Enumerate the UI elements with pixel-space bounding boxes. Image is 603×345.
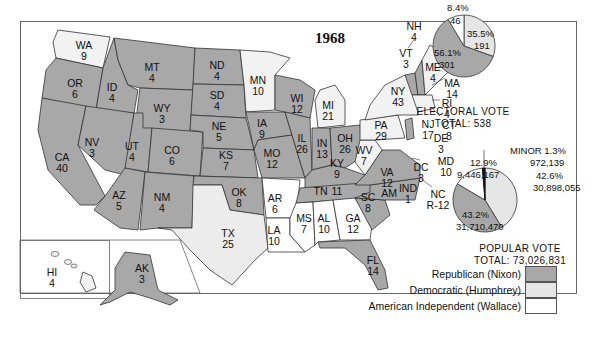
label-ND: ND4 (209, 60, 224, 82)
legend-item-democratic: Democratic (Humphrey) (410, 282, 557, 298)
label-NH: NH4 (406, 21, 421, 43)
hawaii-inset-frame (21, 241, 110, 299)
label-MN: MN10 (250, 75, 266, 97)
label-ID: ID4 (107, 82, 118, 104)
label-UT: UT4 (125, 141, 139, 163)
label-CO: CO6 (164, 145, 180, 167)
label-MD: MD10 (438, 156, 454, 178)
ev-r-value: 301 (439, 59, 455, 70)
label-OH: OH26 (337, 133, 353, 155)
label-AL: AL10 (318, 213, 331, 235)
ev-ai-value: 46 (450, 15, 461, 26)
label-IN: IN13 (316, 138, 328, 160)
label-VT: VT3 (399, 48, 412, 70)
ev-caption: ELECTORAL VOTETOTAL: 538 (413, 106, 513, 130)
state-HI (80, 272, 96, 292)
label-NE: NE5 (212, 121, 227, 143)
label-SC: SC8 (361, 192, 376, 214)
label-DC: DC3 (413, 162, 428, 184)
label-HI: HI4 (47, 267, 58, 289)
label-IA: IA9 (257, 118, 267, 140)
label-SD: SD4 (210, 90, 225, 112)
label-NY: NY43 (391, 86, 406, 108)
label-AK: AK3 (135, 263, 149, 285)
pv-minor-value: 972,139 (530, 157, 564, 168)
pv-minor-label: MINOR 1.3% (510, 145, 566, 156)
label-VA: VA12 (380, 167, 393, 189)
label-TN: TN11 (314, 186, 343, 197)
pv-caption: POPULAR VOTETOTAL: 73,026,831 (455, 243, 585, 267)
label-NC-amind: AM (381, 188, 397, 199)
label-LA: LA10 (268, 225, 281, 247)
label-PA: PA29 (374, 120, 387, 142)
label-CA: CA40 (55, 152, 70, 174)
label-MT: MT4 (144, 62, 159, 84)
map-title: 1968 (315, 30, 345, 47)
label-GA: GA12 (345, 213, 360, 235)
label-DE: DE3 (434, 133, 449, 155)
label-AR: AR6 (268, 193, 283, 215)
label-WI: WI12 (291, 93, 304, 115)
label-AZ: AZ5 (112, 190, 125, 212)
label-OR: OR6 (67, 78, 83, 100)
label-NV: NV3 (85, 137, 100, 159)
pv-ai-value: 9,446,167 (457, 169, 499, 180)
pv-r-value: 31,710,470 (456, 221, 504, 232)
label-NC-ind: IND1 (399, 183, 417, 205)
ev-ai-pct: 8.4% (447, 2, 469, 13)
label-NC: NCR-12 (427, 189, 450, 211)
ev-r-pct: 56.1% (434, 47, 461, 58)
ev-d-value: 191 (474, 40, 490, 51)
label-MI: MI21 (322, 100, 334, 122)
legend-swatch-republican (525, 266, 557, 282)
legend-item-independent: American Independent (Wallace) (368, 298, 557, 314)
legend: Republican (Nixon) Democratic (Humphrey)… (297, 266, 557, 332)
label-KS: KS7 (219, 150, 233, 172)
label-WA: WA9 (76, 40, 93, 62)
label-IL: IL26 (296, 133, 308, 155)
label-KY: KY9 (330, 158, 344, 180)
ev-d-pct: 35.5% (467, 28, 494, 39)
legend-item-republican: Republican (Nixon) (432, 266, 557, 282)
pv-ai-pct: 12.9% (470, 157, 497, 168)
label-WV: WV7 (356, 145, 373, 167)
label-MS: MS7 (296, 213, 312, 235)
label-MO: MO12 (264, 148, 281, 170)
legend-swatch-independent (525, 298, 557, 314)
label-NM: NM4 (154, 192, 170, 214)
label-OK: OK8 (231, 187, 246, 209)
label-WY: WY3 (154, 103, 171, 125)
pv-d-pct: 42.6% (536, 170, 563, 181)
pv-d-value: 30,898,055 (533, 182, 581, 193)
legend-swatch-democratic (525, 282, 557, 298)
label-TX: TX25 (221, 228, 234, 250)
pv-r-pct: 43.2% (462, 209, 489, 220)
